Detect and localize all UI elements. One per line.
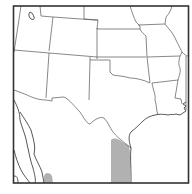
- map-canvas: [0, 0, 192, 194]
- range-map: [0, 0, 192, 194]
- range-area-west-mexico: [44, 173, 53, 183]
- great-salt-lake: [29, 12, 34, 19]
- state-borders: [14, 6, 188, 148]
- coastlines: [14, 100, 186, 183]
- map-frame: [14, 6, 189, 183]
